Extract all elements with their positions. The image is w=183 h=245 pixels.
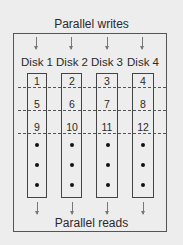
continuation-dot-icon	[106, 143, 110, 147]
disk-1-column	[27, 73, 47, 198]
disk-2-column	[61, 73, 82, 198]
read-arrow-icon	[37, 202, 38, 214]
read-arrow-icon	[143, 202, 144, 214]
continuation-dot-icon	[70, 183, 74, 187]
block-5: 5	[22, 98, 52, 110]
block-1: 1	[22, 75, 52, 87]
continuation-dot-icon	[141, 163, 145, 167]
block-9: 9	[22, 121, 52, 133]
block-11: 11	[92, 121, 122, 133]
read-arrow-icon	[72, 202, 73, 214]
disk-2-label: Disk 2	[52, 56, 92, 68]
continuation-dot-icon	[106, 183, 110, 187]
disk-1-label: Disk 1	[17, 56, 57, 68]
block-2: 2	[57, 75, 87, 87]
disk-3-column	[96, 73, 118, 198]
write-arrow-icon	[107, 37, 108, 49]
parallel-writes-label: Parallel writes	[0, 17, 183, 31]
block-10: 10	[57, 121, 87, 133]
write-arrow-icon	[71, 37, 72, 49]
disk-4-column	[132, 73, 154, 198]
block-7: 7	[92, 98, 122, 110]
continuation-dot-icon	[35, 183, 39, 187]
continuation-dot-icon	[35, 163, 39, 167]
stripe-divider-1	[18, 87, 166, 88]
continuation-dot-icon	[141, 183, 145, 187]
block-3: 3	[92, 75, 122, 87]
continuation-dot-icon	[70, 163, 74, 167]
continuation-dot-icon	[106, 163, 110, 167]
write-arrow-icon	[142, 37, 143, 49]
continuation-dot-icon	[141, 143, 145, 147]
continuation-dot-icon	[35, 143, 39, 147]
continuation-dot-icon	[70, 143, 74, 147]
disk-4-label: Disk 4	[123, 56, 163, 68]
stripe-divider-3	[18, 133, 166, 134]
stripe-divider-2	[18, 110, 166, 111]
write-arrow-icon	[36, 37, 37, 49]
disk-3-label: Disk 3	[87, 56, 127, 68]
block-4: 4	[128, 75, 158, 87]
parallel-reads-label: Parallel reads	[0, 216, 183, 230]
block-8: 8	[128, 98, 158, 110]
block-12: 12	[128, 121, 158, 133]
read-arrow-icon	[107, 202, 108, 214]
block-6: 6	[57, 98, 87, 110]
